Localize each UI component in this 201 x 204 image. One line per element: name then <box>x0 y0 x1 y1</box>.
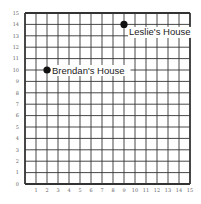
y-tick-label: 2 <box>16 158 19 164</box>
x-tick-label: 8 <box>111 187 114 193</box>
x-axis-tick-labels: 123456789101112131415 <box>34 187 193 193</box>
x-tick-label: 11 <box>143 187 149 193</box>
house-label: Leslie's House <box>129 26 191 37</box>
x-tick-label: 7 <box>100 187 103 193</box>
house-point-marker <box>43 66 50 73</box>
y-tick-label: 0 <box>16 181 19 187</box>
x-tick-label: 5 <box>78 187 81 193</box>
y-tick-label: 6 <box>16 112 19 118</box>
x-tick-label: 15 <box>187 187 193 193</box>
x-tick-label: 13 <box>165 187 171 193</box>
y-tick-label: 14 <box>13 21 19 27</box>
y-tick-label: 1 <box>16 169 19 175</box>
grid-lines <box>25 13 190 184</box>
y-tick-label: 11 <box>13 55 19 61</box>
x-tick-label: 10 <box>132 187 138 193</box>
coordinate-grid-chart: 0123456789101112131415 12345678910111213… <box>0 0 201 204</box>
y-tick-label: 12 <box>13 44 19 50</box>
house-label: Brendan's House <box>52 65 125 76</box>
data-points: Brendan's HouseLeslie's House <box>43 21 201 76</box>
y-tick-label: 8 <box>16 90 19 96</box>
y-tick-label: 3 <box>16 147 19 153</box>
y-tick-label: 7 <box>16 101 19 107</box>
y-tick-label: 4 <box>16 135 19 141</box>
y-tick-label: 15 <box>13 10 19 16</box>
y-tick-label: 13 <box>13 33 19 39</box>
house-point-marker <box>120 21 127 28</box>
x-tick-label: 4 <box>67 187 70 193</box>
x-tick-label: 3 <box>56 187 59 193</box>
y-tick-label: 9 <box>16 78 19 84</box>
x-tick-label: 2 <box>45 187 48 193</box>
x-tick-label: 9 <box>122 187 125 193</box>
x-tick-label: 12 <box>154 187 160 193</box>
x-tick-label: 1 <box>34 187 37 193</box>
x-tick-label: 6 <box>89 187 92 193</box>
y-axis-tick-labels: 0123456789101112131415 <box>13 10 19 187</box>
x-tick-label: 14 <box>176 187 182 193</box>
y-tick-label: 10 <box>13 67 19 73</box>
y-tick-label: 5 <box>16 124 19 130</box>
